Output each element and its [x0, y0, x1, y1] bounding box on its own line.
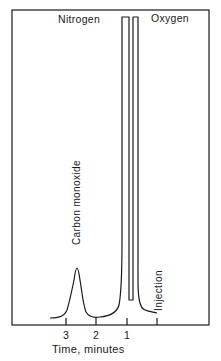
chart-plot-area — [0, 0, 221, 361]
injection-label: Injection — [153, 270, 164, 311]
x-axis-label: Time, minutes — [52, 343, 125, 355]
chromatogram-trace — [50, 17, 157, 318]
oxygen-label: Oxygen — [151, 12, 189, 24]
plot-frame — [12, 10, 209, 325]
x-tick-label-2: 2 — [89, 329, 103, 341]
x-tick-label-1: 1 — [120, 329, 134, 341]
chromatogram-chart: Nitrogen Oxygen Carbon monoxide Injectio… — [0, 0, 221, 361]
x-axis-ticks — [66, 318, 157, 325]
carbon-monoxide-label: Carbon monoxide — [71, 160, 82, 245]
x-tick-label-3: 3 — [59, 329, 73, 341]
nitrogen-label: Nitrogen — [58, 13, 100, 25]
